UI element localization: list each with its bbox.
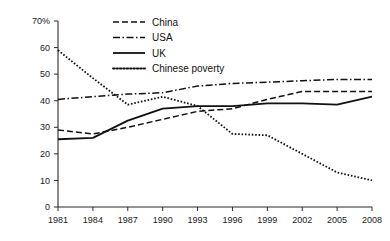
y-tick-label: 40 (40, 96, 50, 106)
x-tick-label: 2005 (327, 215, 347, 225)
line-chart: 010203040506070% 19811984198719901993199… (0, 0, 390, 241)
x-tick-label: 1987 (118, 215, 138, 225)
x-tick-label: 2008 (362, 215, 382, 225)
legend-label-usa: USA (152, 32, 173, 43)
legend-label-china: China (152, 17, 179, 28)
chart-canvas: 010203040506070% 19811984198719901993199… (0, 0, 390, 241)
y-tick-label: 70% (32, 16, 50, 26)
x-tick-label: 2002 (292, 215, 312, 225)
y-tick-label: 20 (40, 149, 50, 159)
x-tick-label: 1999 (257, 215, 277, 225)
legend-label-chinese-poverty: Chinese poverty (152, 63, 224, 74)
x-tick-label: 1981 (48, 215, 68, 225)
x-tick-label: 1993 (188, 215, 208, 225)
y-tick-label: 50 (40, 69, 50, 79)
legend-label-uk: UK (152, 48, 166, 59)
x-tick-label: 1996 (222, 215, 242, 225)
x-tick-label: 1990 (153, 215, 173, 225)
y-tick-label: 10 (40, 176, 50, 186)
x-tick-label: 1984 (83, 215, 103, 225)
y-tick-label: 30 (40, 122, 50, 132)
y-tick-label: 0 (45, 202, 50, 212)
y-tick-label: 60 (40, 43, 50, 53)
